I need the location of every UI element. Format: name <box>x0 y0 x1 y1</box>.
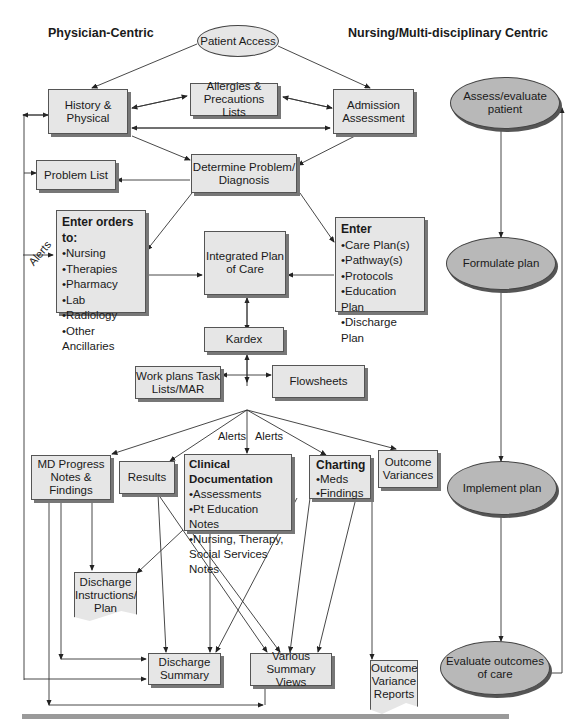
bottom-rule <box>22 714 509 719</box>
outcome-variances-box: Outcome Variances <box>378 450 438 488</box>
order-item: Therapies <box>62 262 140 278</box>
plan-item: Care Plan(s) <box>341 238 419 254</box>
clinical-doc-item: Assessments <box>189 487 287 502</box>
problem-list-box: Problem List <box>36 160 116 190</box>
header-nursing-centric: Nursing/Multi-disciplinary Centric <box>348 26 548 40</box>
history-physical-box: History & Physical <box>48 89 128 134</box>
plan-item: Pathway(s) <box>341 253 419 269</box>
flowsheets-box: Flowsheets <box>272 365 365 398</box>
charting-item: Meds <box>316 472 364 486</box>
order-item: Other Ancillaries <box>62 324 140 355</box>
order-item: Nursing <box>62 246 140 262</box>
clinical-documentation-box: Clinical Documentation Assessments Pt Ed… <box>184 454 292 531</box>
header-physician-centric: Physician-Centric <box>48 26 154 40</box>
order-item: Pharmacy <box>62 277 140 293</box>
allergies-box: Allergies & Precautions Lists <box>190 83 278 116</box>
formulate-plan-node: Formulate plan <box>446 237 556 290</box>
plan-item: Education Plan <box>341 284 419 315</box>
admission-assessment-box: Admission Assessment <box>333 89 414 134</box>
enter-plans-box: Enter Care Plan(s) Pathway(s) Protocols … <box>335 217 425 312</box>
assess-evaluate-node: Assess/evaluate patient <box>450 77 560 129</box>
integrated-plan-box: Integrated Plan of Care <box>204 231 286 295</box>
kardex-box: Kardex <box>204 327 284 352</box>
plan-item: Protocols <box>341 269 419 285</box>
evaluate-outcomes-node: Evaluate outcomes of care <box>440 641 550 695</box>
charting-item: Findings <box>316 486 364 500</box>
results-box: Results <box>119 461 175 494</box>
determine-problem-box: Determine Problem/ Diagnosis <box>191 154 297 193</box>
order-item: Lab <box>62 293 140 309</box>
alerts-label: Alerts <box>255 430 283 442</box>
order-item: Radiology <box>62 308 140 324</box>
work-plans-box: Work plans Task Lists/MAR <box>135 366 221 399</box>
charting-title: Charting <box>316 458 364 472</box>
alerts-label: Alerts <box>218 430 246 442</box>
enter-orders-box: Enter orders to: Nursing Therapies Pharm… <box>56 210 146 313</box>
charting-box: Charting Meds Findings <box>309 455 371 499</box>
plan-item: Discharge Plan <box>341 315 419 346</box>
enter-orders-title: Enter orders to: <box>62 215 140 246</box>
md-progress-box: MD Progress Notes & Findings <box>31 455 111 500</box>
various-summary-views-box: Various Summary Views <box>250 653 332 686</box>
clinical-doc-item: Nursing, Therapy, Social Services Notes <box>189 532 287 577</box>
clinical-doc-title: Clinical Documentation <box>189 457 287 487</box>
discharge-summary-box: Discharge Summary <box>148 653 221 685</box>
implement-plan-node: Implement plan <box>447 461 557 515</box>
enter-plans-title: Enter <box>341 222 419 238</box>
clinical-doc-item: Pt Education Notes <box>189 502 287 532</box>
patient-access-node: Patient Access <box>197 25 279 57</box>
